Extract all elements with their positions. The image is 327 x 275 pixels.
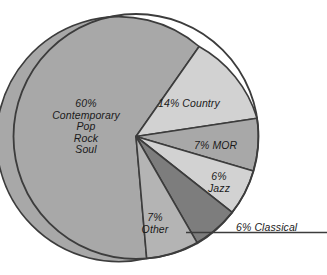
slice-label-country: 14% Country — [158, 98, 250, 110]
pie-chart-figure: 60% Contemporary Pop Rock Soul 14% Count… — [0, 0, 327, 275]
slice-label-classical: 6% Classical — [236, 222, 322, 234]
slice-label-other: 7% Other — [131, 212, 179, 235]
slice-label-contemporary-pop-rock-soul: 60% Contemporary Pop Rock Soul — [34, 98, 138, 156]
slice-label-mor: 7% MOR — [194, 140, 266, 152]
slice-label-jazz: 6% Jazz — [196, 171, 242, 194]
